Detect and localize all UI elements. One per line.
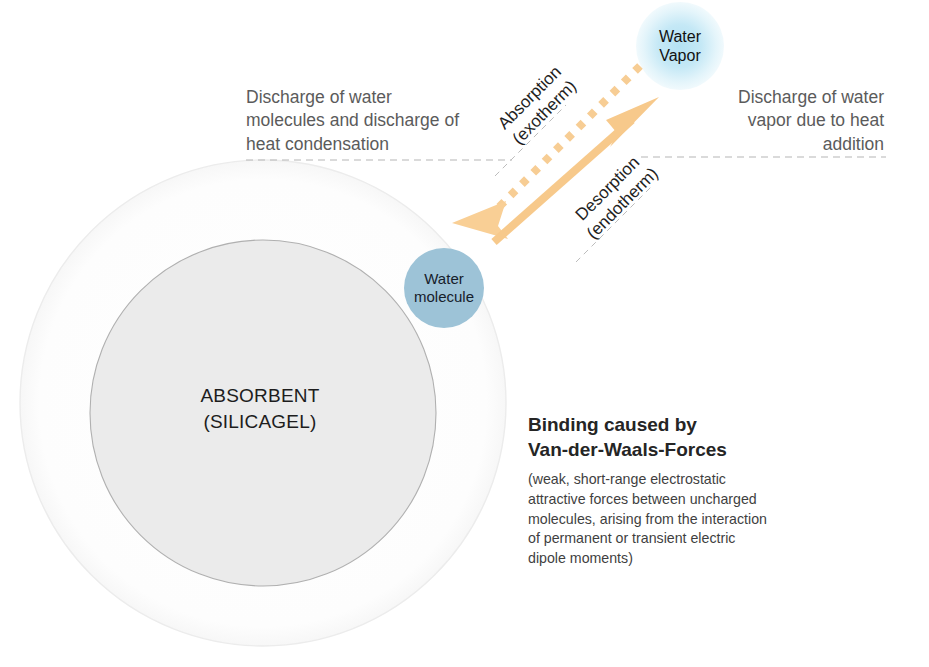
water-vapor-bubble: Water Vapor [636,2,724,90]
label-discharge-of-water: Discharge of water molecules and dischar… [246,86,476,156]
water-molecule-label: Water molecule [414,270,474,306]
binding-description: (weak, short-range electrostatic attract… [528,470,828,569]
absorbent-label: ABSORBENT (SILICAGEL) [130,383,390,435]
binding-title: Binding caused by Van-der-Waals-Forces [528,412,828,462]
binding-info-block: Binding caused by Van-der-Waals-Forces (… [528,412,828,569]
water-vapor-label: Water Vapor [659,27,701,65]
adsorption-diagram: Discharge of water molecules and dischar… [0,0,929,667]
label-discharge-of-vapor: Discharge of water vapor due to heat add… [690,86,884,156]
water-molecule-bubble: Water molecule [404,248,484,328]
